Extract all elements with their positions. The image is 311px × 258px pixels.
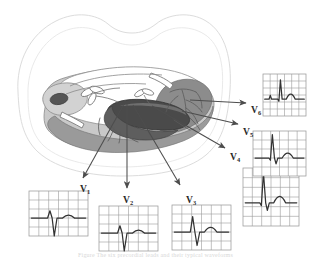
lead-letter: V xyxy=(80,184,87,194)
ecg-grid-v6 xyxy=(263,74,306,116)
lead-subscript: 1 xyxy=(87,188,90,195)
ecg-grid-v1 xyxy=(29,191,88,236)
lead-letter: V xyxy=(251,105,258,115)
precordial-leads-figure: V1V2V3V4V5V6 Figure The six precordial l… xyxy=(0,0,311,258)
lead-label-v4: V4 xyxy=(230,153,240,163)
lead-letter: V xyxy=(230,152,237,162)
lead-letter: V xyxy=(123,195,130,205)
lead-subscript: 5 xyxy=(250,131,253,138)
lead-label-v1: V1 xyxy=(80,185,90,195)
ecg-grid-v3 xyxy=(172,205,231,250)
lead-subscript: 3 xyxy=(193,199,196,206)
lead-label-v5: V5 xyxy=(243,128,253,138)
ecg-grids-layer xyxy=(0,0,311,258)
lead-letter: V xyxy=(243,127,250,137)
lead-label-v6: V6 xyxy=(251,106,261,116)
lead-subscript: 6 xyxy=(258,109,261,116)
lead-subscript: 2 xyxy=(130,199,133,206)
ecg-grid-v2 xyxy=(99,206,158,251)
lead-label-v2: V2 xyxy=(123,196,133,206)
lead-subscript: 4 xyxy=(237,156,240,163)
ecg-grid-v5 xyxy=(253,131,306,176)
ecg-grid-v4 xyxy=(243,168,299,226)
lead-letter: V xyxy=(186,195,193,205)
figure-caption: Figure The six precordial leads and thei… xyxy=(0,252,311,258)
lead-label-v3: V3 xyxy=(186,196,196,206)
